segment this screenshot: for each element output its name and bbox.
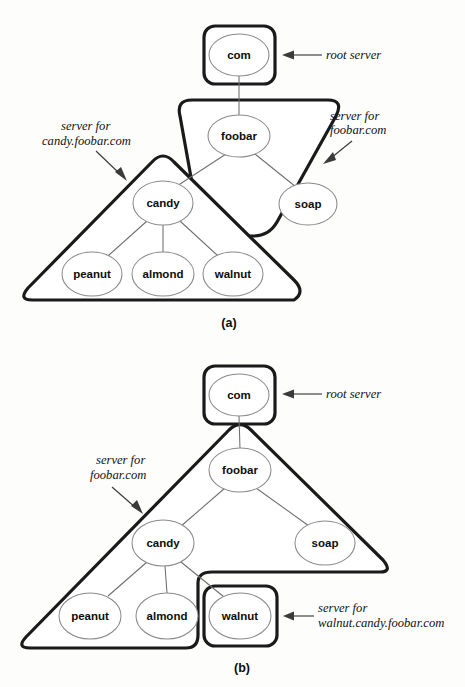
node-foobar-a[interactable]: foobar [208,115,270,157]
annotation-label-line2: walnut.candy.foobar.com [318,616,444,630]
annotation-label: root server [326,48,381,62]
node-soap-a[interactable]: soap [279,183,337,225]
panel-b: com foobar soap candy peanut almond [22,366,444,675]
node-label: candy [146,197,180,209]
annotation-foobar-com-a: server for foobar.com [323,109,386,164]
node-soap-b[interactable]: soap [295,521,355,565]
node-almond-b[interactable]: almond [136,593,198,639]
annotation-label-line2: foobar.com [90,468,146,482]
node-label: almond [143,268,184,280]
node-label: peanut [71,610,109,622]
panel-caption-b: (b) [234,661,250,675]
arrow-head-icon [323,152,336,164]
annotation-walnut-candy-foobar-com-b: server for walnut.candy.foobar.com [283,601,444,630]
node-walnut-b[interactable]: walnut [209,593,271,639]
node-label: com [227,49,251,61]
annotation-label-line1: server for [318,601,367,615]
annotation-label-line1: server for [330,109,379,123]
arrow-head-icon [282,390,294,399]
arrow-head-icon [131,500,143,514]
annotation-label-line2: foobar.com [330,123,386,137]
node-label: foobar [222,464,258,476]
node-label: soap [312,537,339,549]
annotation-candy-foobar-com-a: server for candy.foobar.com [42,119,131,181]
panel-a: com foobar soap candy peanut almond [24,26,386,330]
annotation-label-line1: server for [61,119,110,133]
node-almond-a[interactable]: almond [132,252,194,296]
node-label: soap [295,198,322,210]
node-candy-a[interactable]: candy [133,181,193,225]
annotation-foobar-com-b: server for foobar.com [90,453,146,514]
arrow-head-icon [282,51,294,60]
node-com-a[interactable]: com [209,34,269,76]
node-candy-b[interactable]: candy [132,520,194,566]
node-label: almond [147,610,188,622]
node-label: peanut [73,268,111,280]
node-label: walnut [214,268,252,280]
dns-zone-figure: com foobar soap candy peanut almond [0,0,465,687]
node-label: com [227,389,251,401]
arrow-head-icon [283,612,294,621]
node-walnut-a[interactable]: walnut [203,252,263,296]
panel-caption-a: (a) [221,316,236,330]
annotation-label-line2: candy.foobar.com [42,134,131,148]
node-foobar-b[interactable]: foobar [209,448,271,492]
node-com-b[interactable]: com [209,374,269,416]
annotation-root-server-b: root server [282,387,381,401]
node-peanut-a[interactable]: peanut [62,252,122,296]
node-label: foobar [221,130,257,142]
figure-canvas: com foobar soap candy peanut almond [0,0,465,687]
annotation-label: root server [326,387,381,401]
node-peanut-b[interactable]: peanut [59,593,121,639]
annotation-root-server-a: root server [282,48,381,62]
node-label: walnut [221,610,259,622]
leader-line [96,151,120,174]
arrow-head-icon [115,167,127,181]
node-label: candy [146,537,180,549]
annotation-label-line1: server for [96,453,145,467]
